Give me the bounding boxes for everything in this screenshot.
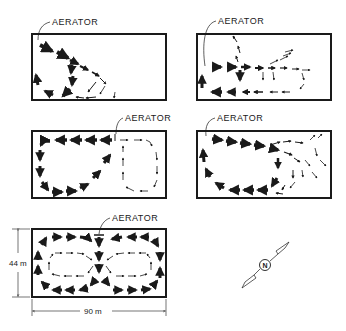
- flow-arrows: [202, 36, 310, 92]
- aerator-label: AERATOR: [112, 213, 158, 223]
- north-arrow-icon: N: [242, 242, 289, 288]
- width-label: 90 m: [84, 307, 102, 316]
- aerator-label: AERATOR: [125, 113, 171, 123]
- aerator-leader-line: [204, 21, 216, 66]
- dimension-width: 90 m: [32, 299, 166, 316]
- aerator-leader-line: [99, 218, 110, 234]
- pond-outline: [32, 131, 166, 198]
- flow-arrows: [40, 140, 157, 192]
- aerator-leader-line: [206, 118, 215, 136]
- height-label: 44 m: [9, 259, 27, 268]
- aerator-label: AERATOR: [218, 16, 264, 26]
- aerator-label: AERATOR: [52, 17, 98, 27]
- aerator-leader-line: [38, 22, 50, 40]
- flow-arrows: [203, 134, 326, 194]
- diagram-canvas: AERATOR AERATOR: [0, 0, 346, 331]
- panel-bottom-left: AERATOR: [32, 213, 166, 297]
- panel-top-left: AERATOR: [32, 17, 166, 100]
- panel-top-right: AERATOR: [197, 16, 331, 100]
- pond-outline: [32, 34, 166, 100]
- flow-arrows: [38, 237, 160, 290]
- aerator-label: AERATOR: [217, 113, 263, 123]
- flow-arrows: [36, 45, 115, 98]
- panel-middle-right: AERATOR: [197, 113, 331, 198]
- panel-middle-left: AERATOR: [32, 113, 171, 198]
- dimension-height: 44 m: [9, 229, 30, 297]
- north-label: N: [262, 262, 267, 269]
